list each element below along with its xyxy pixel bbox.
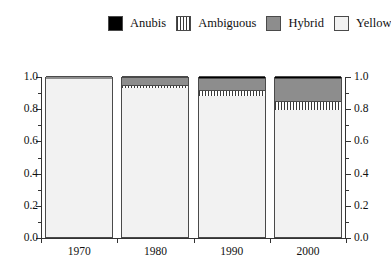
y-axis-tick-label: 0.0 — [354, 232, 368, 244]
legend-item-ambiguous: Ambiguous — [176, 16, 256, 31]
bar-segment-1980-anubis — [122, 76, 188, 77]
legend-label-anubis: Anubis — [130, 17, 166, 30]
legend-label-hybrid: Hybrid — [288, 17, 323, 30]
bar-segment-2000-ambiguous — [275, 101, 341, 110]
solid-black-swatch-icon — [108, 16, 123, 31]
legend-label-yellow: Yellow — [356, 17, 391, 30]
y-axis-major-tick — [346, 141, 351, 142]
bar-segment-1970-hybrid — [46, 76, 112, 79]
solid-gray-swatch-icon — [266, 16, 281, 31]
y-axis-tick-label: 0.6 — [24, 135, 38, 147]
x-axis-tick — [41, 238, 42, 243]
legend-item-yellow: Yellow — [334, 16, 391, 31]
bar-segment-1990-ambiguous — [199, 90, 265, 96]
legend-item-hybrid: Hybrid — [266, 16, 323, 31]
bar-segment-1980-hybrid — [122, 77, 188, 85]
y-axis-minor-tick — [346, 190, 349, 191]
legend-label-ambiguous: Ambiguous — [198, 17, 256, 30]
bar-segment-2000-yellow — [275, 110, 341, 237]
x-axis-tick-label: 2000 — [268, 246, 348, 258]
y-axis-minor-tick — [346, 158, 349, 159]
y-axis-tick-label: 0.8 — [354, 103, 368, 115]
stacked-bar-chart: Anubis Ambiguous Hybrid Yellow 1.01.00.8… — [0, 0, 391, 270]
chart-legend: Anubis Ambiguous Hybrid Yellow — [108, 12, 391, 34]
y-axis-tick-label: 0.2 — [354, 200, 368, 212]
y-axis-major-tick — [346, 109, 351, 110]
y-axis-tick-label: 0.2 — [24, 200, 38, 212]
y-axis-minor-tick — [346, 222, 349, 223]
x-axis-tick — [346, 238, 347, 243]
bar-segment-2000-anubis — [275, 76, 341, 78]
bar-segment-1970-yellow — [46, 79, 112, 237]
x-axis-tick-label: 1980 — [115, 246, 195, 258]
dotted-swatch-icon — [334, 16, 349, 31]
bar-1970 — [45, 77, 113, 238]
bar-2000 — [274, 77, 342, 238]
bar-1980 — [121, 77, 189, 238]
bar-segment-1980-yellow — [122, 88, 188, 237]
y-axis-tick-label: 1.0 — [24, 71, 38, 83]
y-axis-tick-label: 0.0 — [24, 232, 38, 244]
bar-segment-1990-yellow — [199, 96, 265, 237]
bar-segment-1990-hybrid — [199, 78, 265, 89]
bar-segment-1990-anubis — [199, 76, 265, 78]
y-axis-tick-label: 0.8 — [24, 103, 38, 115]
y-axis-tick-label: 0.6 — [354, 135, 368, 147]
y-axis-tick-label: 1.0 — [354, 71, 368, 83]
y-axis-minor-tick — [346, 125, 349, 126]
vertical-stripes-swatch-icon — [176, 16, 191, 31]
y-axis-tick-label: 0.4 — [354, 168, 368, 180]
y-axis-major-tick — [346, 174, 351, 175]
y-axis-tick-label: 0.4 — [24, 168, 38, 180]
bar-1990 — [198, 77, 266, 238]
bar-segment-1980-ambiguous — [122, 85, 188, 88]
y-axis-major-tick — [346, 206, 351, 207]
x-axis-tick-label: 1990 — [192, 246, 272, 258]
x-axis-tick — [194, 238, 195, 243]
x-axis-tick-label: 1970 — [39, 246, 119, 258]
y-axis-minor-tick — [346, 93, 349, 94]
x-axis-tick — [270, 238, 271, 243]
plot-area — [41, 77, 346, 238]
bar-segment-2000-hybrid — [275, 78, 341, 101]
legend-item-anubis: Anubis — [108, 16, 166, 31]
y-axis-major-tick — [346, 77, 351, 78]
x-axis-tick — [117, 238, 118, 243]
